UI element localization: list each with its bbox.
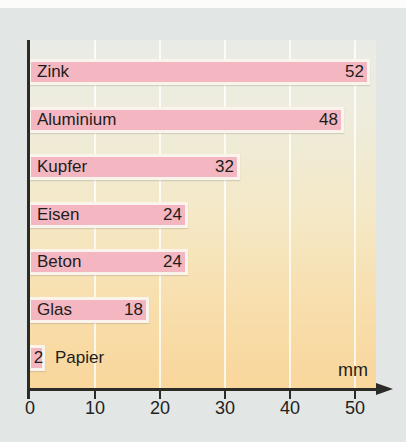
- bar-label: Zink: [37, 59, 69, 85]
- tick-label-30: 30: [215, 398, 235, 419]
- y-axis-line: [27, 40, 30, 399]
- bar-value: 48: [308, 107, 338, 133]
- tick-label-0: 0: [25, 398, 35, 419]
- bar-value: 24: [152, 249, 182, 275]
- tick-label-20: 20: [150, 398, 170, 419]
- bar-row-zink: 52Zink: [30, 59, 376, 85]
- bar-label: Glas: [37, 297, 72, 323]
- bar-value: 18: [113, 297, 143, 323]
- bar-chart-figure: 52Zink48Aluminium32Kupfer24Eisen24Beton1…: [0, 0, 406, 442]
- bar-row-aluminium: 48Aluminium: [30, 107, 376, 133]
- bar-row-beton: 24Beton: [30, 249, 376, 275]
- bar-zink: [28, 59, 370, 85]
- page-top-margin: [0, 0, 406, 8]
- bar-label: Beton: [37, 249, 81, 275]
- bar-label: Eisen: [37, 202, 80, 228]
- bar-value: 24: [152, 202, 182, 228]
- bar-value: 32: [204, 154, 234, 180]
- bar-row-eisen: 24Eisen: [30, 202, 376, 228]
- bar-row-kupfer: 32Kupfer: [30, 154, 376, 180]
- plot-area: 52Zink48Aluminium32Kupfer24Eisen24Beton1…: [30, 40, 376, 389]
- bar-label: Aluminium: [37, 107, 116, 133]
- tick-label-50: 50: [345, 398, 365, 419]
- tick-label-10: 10: [85, 398, 105, 419]
- bar-row-glas: 18Glas: [30, 297, 376, 323]
- x-axis-line: [27, 388, 378, 391]
- tick-label-40: 40: [280, 398, 300, 419]
- bar-value: 52: [334, 59, 364, 85]
- bar-label: Papier: [55, 345, 104, 371]
- x-axis-unit-label: mm: [300, 360, 368, 381]
- x-axis-arrow-icon: [376, 383, 393, 395]
- bar-label: Kupfer: [37, 154, 87, 180]
- bar-value: 2: [30, 345, 47, 371]
